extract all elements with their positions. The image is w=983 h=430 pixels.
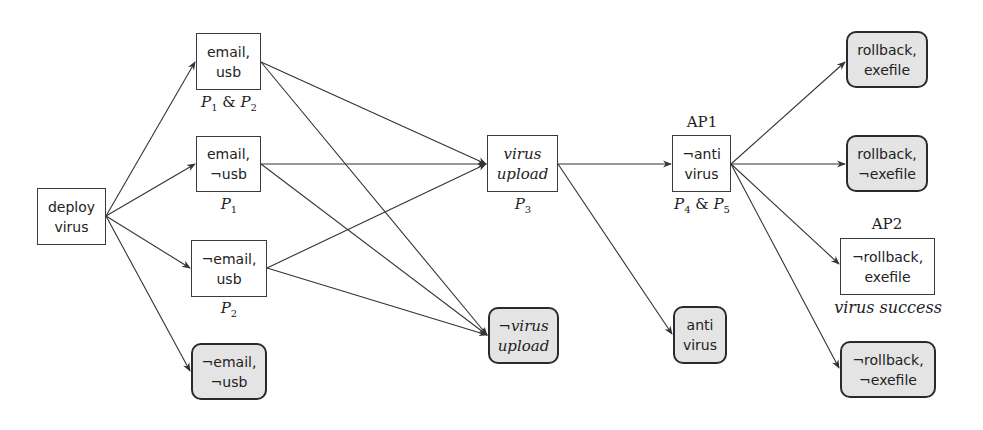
node-text-line2: virus — [684, 164, 718, 184]
node-rollback-not-exefile: rollback, ¬exefile — [846, 135, 928, 192]
node-virus-upload: virus upload — [487, 135, 558, 192]
node-text-line2: exefile — [864, 60, 910, 80]
attack-tree-diagram: deploy virus email, usb email, ¬usb ¬ema… — [0, 0, 983, 430]
node-text-line1: ¬email, — [202, 352, 257, 372]
node-text-line2: ¬exefile — [859, 370, 917, 390]
node-text-line1: email, — [207, 42, 250, 62]
node-text-line1: email, — [207, 144, 250, 164]
node-text-line1: virus — [504, 144, 542, 164]
node-not-email-usb: ¬email, usb — [191, 240, 267, 297]
node-text-line2: ¬exefile — [858, 164, 916, 184]
node-not-email-not-usb: ¬email, ¬usb — [191, 343, 267, 400]
edge-deploy-to-email-not-usb — [106, 164, 195, 216]
node-text-line2: usb — [216, 269, 241, 289]
node-deploy-virus: deploy virus — [37, 188, 106, 245]
edge-not-email-usb-to-virus-upload — [267, 164, 486, 268]
label-p1: P1 — [221, 195, 237, 215]
node-anti-virus: anti virus — [673, 306, 727, 364]
label-p4-and-p5: P4 & P5 — [674, 195, 730, 215]
node-text-line1: ¬anti — [682, 144, 721, 164]
edge-deploy-to-not-email-usb — [106, 216, 190, 268]
edge-deploy-to-not-email-not-usb — [106, 216, 190, 371]
node-not-rollback-exefile: ¬rollback, exefile — [840, 238, 935, 295]
edge-not-anti-virus-to-not-rollback-not-exefile — [731, 164, 839, 368]
node-text-line2: ¬usb — [210, 164, 247, 184]
node-text-line1: rollback, — [857, 144, 917, 164]
node-text-line2: upload — [498, 336, 550, 356]
node-text-line1: deploy — [48, 197, 95, 217]
node-email-not-usb: email, ¬usb — [196, 136, 261, 192]
node-not-virus-upload: ¬virus upload — [488, 307, 559, 364]
node-rollback-exefile: rollback, exefile — [846, 31, 928, 88]
label-p3: P3 — [515, 195, 531, 215]
node-text-line1: anti — [687, 315, 714, 335]
edge-email-not-usb-to-not-virus-upload — [261, 164, 487, 335]
node-text-line1: ¬rollback, — [852, 350, 923, 370]
edge-deploy-to-email-usb — [106, 62, 195, 216]
node-text-line1: ¬email, — [202, 249, 257, 269]
edge-email-usb-to-not-virus-upload — [261, 62, 487, 335]
edge-not-email-usb-to-not-virus-upload — [267, 268, 487, 335]
label-ap1: AP1 — [687, 113, 717, 131]
node-text-line2: exefile — [864, 267, 910, 287]
edges-layer — [0, 0, 983, 430]
edge-not-anti-virus-to-rollback-exefile — [731, 62, 845, 164]
node-not-rollback-not-exefile: ¬rollback, ¬exefile — [840, 341, 936, 398]
node-email-usb: email, usb — [196, 33, 261, 90]
label-p1-and-p2: P1 & P2 — [201, 93, 257, 113]
edge-virus-upload-to-anti-virus — [558, 164, 672, 334]
node-text-line2: virus — [54, 217, 88, 237]
node-text-line2: upload — [497, 164, 549, 184]
node-text-line1: rollback, — [857, 40, 917, 60]
edge-email-usb-to-virus-upload — [261, 62, 486, 164]
node-text-line2: usb — [216, 62, 241, 82]
node-text-line1: ¬rollback, — [852, 247, 923, 267]
edge-not-anti-virus-to-not-rollback-exefile — [731, 164, 839, 264]
node-text-line2: virus — [683, 335, 717, 355]
label-ap2: AP2 — [872, 215, 902, 233]
node-not-anti-virus: ¬anti virus — [672, 135, 731, 192]
label-virus-success: virus success — [834, 298, 942, 317]
node-text-line2: ¬usb — [211, 372, 248, 392]
node-text-line1: ¬virus — [498, 316, 548, 336]
label-p2: P2 — [221, 299, 237, 319]
